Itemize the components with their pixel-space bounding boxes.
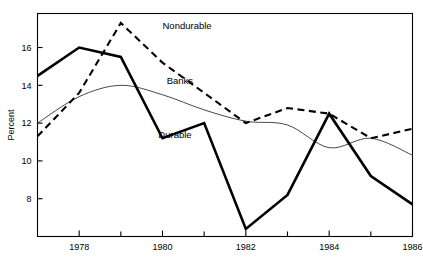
line-chart: 810121416 19781980198219841986 Percent N… [0,0,423,263]
x-tick-label: 1984 [319,242,339,252]
series-label-durable: Durable [158,129,191,140]
y-tick-label: 12 [21,118,31,128]
x-tick-label: 1986 [402,242,422,252]
y-axis-title: Percent [6,109,16,141]
x-tick-label: 1980 [152,242,172,252]
chart-container: 810121416 19781980198219841986 Percent N… [0,0,423,263]
x-tick-label: 1978 [69,242,89,252]
y-tick-label: 14 [21,81,31,91]
chart-background [0,0,423,263]
y-tick-label: 10 [21,156,31,166]
x-tick-label: 1982 [236,242,256,252]
series-label-nondurable: Nondurable [163,20,212,31]
y-tick-label: 8 [26,194,31,204]
series-label-banks: Banks [167,75,194,86]
y-tick-label: 16 [21,43,31,53]
